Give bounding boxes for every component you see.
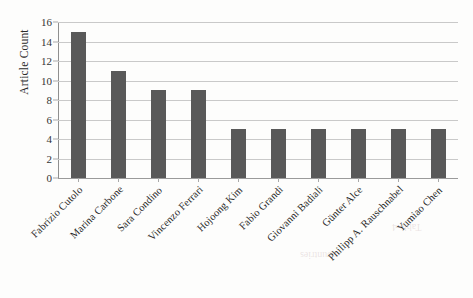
gridline	[58, 61, 458, 62]
bar	[351, 129, 366, 178]
x-axis-tick-mark	[78, 178, 79, 182]
gridline	[58, 22, 458, 23]
bar	[311, 129, 326, 178]
bar	[71, 32, 86, 178]
x-axis-tick-mark	[158, 178, 159, 182]
y-axis-tick-mark	[53, 80, 58, 81]
bar	[151, 90, 166, 178]
y-axis-tick-label: 6	[30, 114, 52, 125]
y-axis-tick-label: 10	[30, 75, 52, 86]
y-axis-tick-label: 8	[30, 95, 52, 106]
x-axis-tick-mark	[238, 178, 239, 182]
x-axis-tick-mark	[198, 178, 199, 182]
y-axis-tick-mark	[53, 139, 58, 140]
bar	[391, 129, 406, 178]
x-axis-tick-mark	[318, 178, 319, 182]
y-axis-tick-label: 2	[30, 153, 52, 164]
y-axis-tick-mark	[53, 22, 58, 23]
y-axis-tick-mark	[53, 61, 58, 62]
bar	[191, 90, 206, 178]
x-axis-tick-label: Philipp A. Rauschnabel	[326, 184, 405, 263]
y-axis-tick-label: 14	[30, 36, 52, 47]
bar	[271, 129, 286, 178]
y-axis-tick-label: 16	[30, 17, 52, 28]
bar-chart-figure: Article Count 0246810121416 Fabrizio Cut…	[0, 0, 473, 298]
bar	[231, 129, 246, 178]
gridline	[58, 42, 458, 43]
x-axis-tick-mark	[278, 178, 279, 182]
y-axis-tick-mark	[53, 119, 58, 120]
y-axis-tick-labels: 0246810121416	[30, 22, 52, 178]
plot-area	[58, 22, 458, 178]
x-axis-tick-labels: Fabrizio CutoloMarina CarboneSara Condin…	[0, 178, 473, 298]
y-axis-tick-mark	[53, 41, 58, 42]
y-axis-tick-mark	[53, 100, 58, 101]
y-axis-tick-mark	[53, 178, 58, 179]
y-axis-tick-label: 4	[30, 134, 52, 145]
x-axis-tick-mark	[358, 178, 359, 182]
x-axis-tick-mark	[398, 178, 399, 182]
bar	[111, 71, 126, 178]
x-axis-tick-mark	[118, 178, 119, 182]
y-axis-tick-mark	[53, 158, 58, 159]
bar	[431, 129, 446, 178]
y-axis-title: Article Count	[18, 2, 30, 122]
y-axis-tick-label: 12	[30, 56, 52, 67]
x-axis-tick-mark	[438, 178, 439, 182]
